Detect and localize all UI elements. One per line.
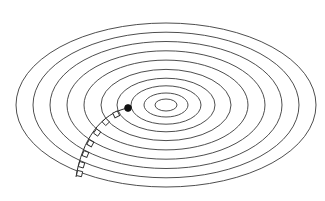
figure-container (0, 0, 325, 201)
center-point (125, 105, 132, 112)
marker-group (125, 105, 132, 112)
path-step-marker-7 (76, 170, 82, 176)
path-step-marker-6 (78, 162, 84, 168)
figure-background (0, 0, 325, 201)
concentric-ellipse-diagram (0, 0, 325, 201)
